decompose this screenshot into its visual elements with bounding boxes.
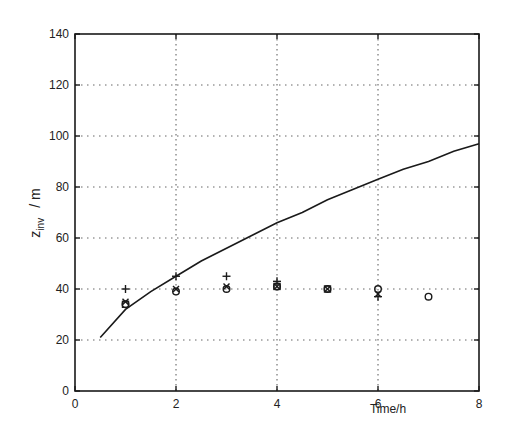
y-label-main: z (27, 231, 43, 238)
svg-text:zinv/ m: zinv/ m (27, 188, 46, 237)
y-tick-label: 20 (56, 333, 70, 347)
y-tick-label: 0 (62, 384, 69, 398)
data-series (100, 144, 479, 338)
data-marker-+ (172, 272, 180, 280)
data-marker-+ (223, 272, 231, 280)
y-label-unit: / m (27, 188, 43, 207)
y-label-sub: inv (35, 218, 46, 231)
x-tick-label: 4 (274, 397, 281, 411)
model-curve (100, 144, 479, 338)
x-axis-label: Time/h (370, 402, 406, 416)
y-tick-label: 80 (56, 180, 70, 194)
y-tick-label: 60 (56, 231, 70, 245)
data-marker-+ (122, 285, 130, 293)
y-tick-label: 100 (49, 129, 69, 143)
data-marker-o (425, 293, 432, 300)
x-tick-label: 0 (72, 397, 79, 411)
y-tick-label: 120 (49, 78, 69, 92)
y-axis-label: zinv/ m (27, 188, 46, 237)
x-tick-label: 2 (173, 397, 180, 411)
axis-ticks (75, 34, 479, 391)
y-tick-label: 140 (49, 27, 69, 41)
x-tick-label: 8 (476, 397, 483, 411)
plot-frame (75, 34, 479, 391)
chart: 02468020406080100120140 Time/h zinv/ m (0, 0, 506, 442)
y-tick-label: 40 (56, 282, 70, 296)
grid-lines (75, 34, 479, 391)
